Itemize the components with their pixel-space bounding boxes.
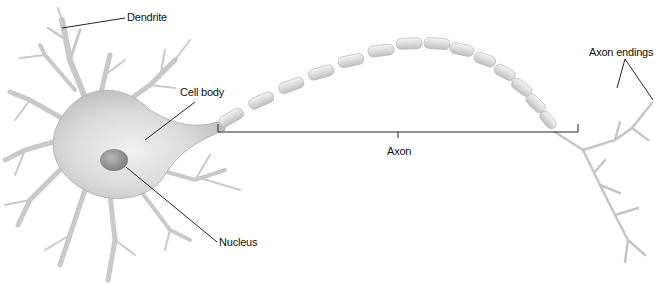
neuron-illustration (0, 0, 660, 302)
myelin-segments (217, 37, 558, 131)
dendrite-label: Dendrite (127, 11, 167, 23)
axon-label: Axon (387, 145, 411, 157)
nucleus-shape (100, 149, 128, 171)
cell-body-label: Cell body (180, 86, 224, 98)
neuron-diagram: Dendrite Cell body Nucleus Axon Axon end… (0, 0, 660, 302)
axon-endings-label: Axon endings (589, 46, 653, 58)
cell-body-shape (53, 90, 225, 198)
nucleus-label: Nucleus (219, 236, 257, 248)
axon-terminals (555, 103, 652, 262)
